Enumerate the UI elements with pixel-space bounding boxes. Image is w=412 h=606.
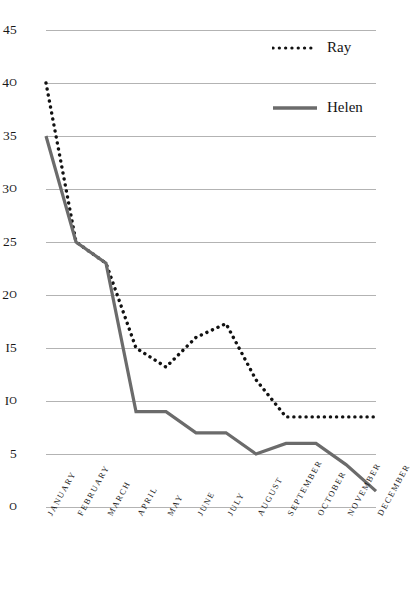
dotted-line-icon bbox=[272, 43, 318, 53]
x-axis-tick-label: DECEMBER bbox=[376, 462, 412, 517]
y-axis-tick-label: 45 bbox=[0, 23, 17, 37]
legend-label-helen: Helen bbox=[327, 100, 363, 115]
y-axis-tick-label: IO bbox=[0, 394, 17, 408]
legend-item-helen: Helen bbox=[272, 100, 363, 115]
y-axis-tick-label: O bbox=[0, 500, 17, 514]
legend-label-ray: Ray bbox=[327, 40, 351, 55]
y-axis-tick-label: 3O bbox=[0, 182, 17, 196]
solid-line-icon bbox=[272, 103, 318, 113]
y-axis-tick-label: I5 bbox=[0, 341, 17, 355]
y-axis-tick-label: 2O bbox=[0, 288, 17, 302]
series-line-ray bbox=[46, 83, 376, 417]
x-axis-labels: JANUARYFEBRUARYMARCHAPRILMAYJUNEJULYAUGU… bbox=[46, 507, 376, 606]
legend-item-ray: Ray bbox=[272, 40, 351, 55]
y-axis-tick-label: 5 bbox=[0, 447, 17, 461]
clipped-title-remnant: · · · · · · · · bbox=[34, 0, 364, 3]
y-axis-tick-label: 4O bbox=[0, 76, 17, 90]
y-axis-tick-label: 35 bbox=[0, 129, 17, 143]
y-axis-tick-label: 25 bbox=[0, 235, 17, 249]
series-line-helen bbox=[46, 136, 376, 491]
